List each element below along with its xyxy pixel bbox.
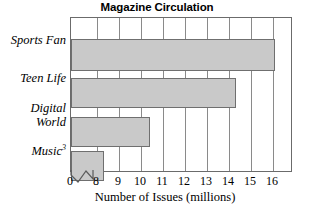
x-tick-label-12: 12 (173, 174, 195, 189)
chart-screenshot: Magazine Circulation Sports Fan Teen Lif… (0, 0, 314, 211)
x-tick-label-11: 11 (151, 174, 173, 189)
category-label-music-text: Music (31, 144, 62, 158)
x-tick-label-8: 8 (85, 174, 107, 189)
plot-area (70, 17, 292, 172)
category-label-music: Music3 (31, 144, 66, 158)
category-label-sports-fan: Sports Fan (11, 33, 66, 47)
x-tick-label-14: 14 (217, 174, 239, 189)
category-label-digital-world-line2: World (36, 115, 66, 129)
x-tick-label-10: 10 (129, 174, 151, 189)
bar-teen-life (71, 78, 236, 108)
x-tick-label-13: 13 (195, 174, 217, 189)
x-axis-title: Number of Issues (millions) (40, 190, 290, 205)
chart-title: Magazine Circulation (0, 1, 314, 13)
x-tick-label-0: 0 (59, 174, 81, 189)
category-label-digital-world-line1: Digital (31, 101, 66, 115)
x-tick-label-9: 9 (107, 174, 129, 189)
category-label-music-superscript: 3 (62, 143, 66, 152)
bar-digital-world (71, 117, 150, 147)
category-label-teen-life: Teen Life (20, 71, 66, 85)
x-tick-label-15: 15 (239, 174, 261, 189)
bar-sports-fan (71, 39, 275, 71)
x-tick-label-16: 16 (261, 174, 283, 189)
